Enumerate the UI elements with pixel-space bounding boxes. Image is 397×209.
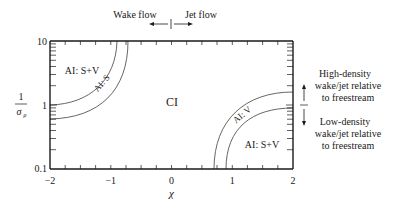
left-arrow-icon — [149, 22, 154, 26]
low-density-line-3: to freestream — [322, 140, 375, 151]
y-tick-1: 1 — [42, 100, 47, 111]
down-arrow-icon — [302, 121, 306, 126]
right-arrow-icon — [188, 22, 193, 26]
x-tick-2: 2 — [291, 175, 296, 186]
high-density-line-3: to freestream — [322, 92, 375, 103]
y-axis-tick-labels: 10 1 0.1 — [35, 36, 48, 174]
y-tick-10: 10 — [37, 36, 47, 47]
y-label-denominator: σ — [17, 106, 23, 117]
low-density-line-1: Low-density — [320, 116, 371, 127]
x-tick-1: 1 — [230, 175, 235, 186]
x-tick-neg1: −1 — [105, 175, 116, 186]
high-density-line-1: High-density — [319, 68, 371, 79]
flow-direction-annotation: Wake flow Jet flow — [113, 9, 217, 29]
y-label-subscript: ρ — [23, 112, 27, 118]
region-bottom-right-outer-label: AI: S+V — [245, 139, 280, 150]
up-arrow-icon — [302, 84, 306, 89]
bottom-right-outer-curve — [214, 92, 293, 169]
jet-flow-label: Jet flow — [185, 9, 218, 20]
y-label-numerator: 1 — [19, 91, 24, 102]
x-tick-0: 0 — [169, 175, 174, 186]
y-axis-label: 1 σ ρ — [15, 91, 27, 118]
x-axis-label: χ — [168, 187, 175, 199]
low-density-line-2: wake/jet relative — [315, 128, 382, 139]
region-top-left-outer-label: AI: S+V — [65, 65, 100, 76]
regime-diagram: Wake flow Jet flow — [0, 0, 397, 209]
wake-flow-label: Wake flow — [113, 9, 157, 20]
density-annotation: High-density wake/jet relative to freest… — [300, 68, 382, 151]
region-bottom-right-band-label: AI: V — [231, 104, 254, 125]
y-tick-0-1: 0.1 — [35, 163, 48, 174]
x-tick-neg2: −2 — [45, 175, 56, 186]
high-density-line-2: wake/jet relative — [315, 80, 382, 91]
x-axis-tick-labels: −2 −1 0 1 2 — [45, 175, 296, 186]
region-center-label: CI — [166, 95, 178, 109]
